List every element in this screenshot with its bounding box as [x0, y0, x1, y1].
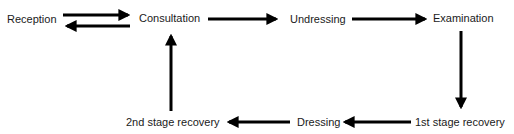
- node-reception: Reception: [7, 13, 57, 26]
- node-undressing: Undressing: [290, 13, 346, 26]
- flow-diagram: Reception Consultation Undressing Examin…: [0, 0, 514, 134]
- node-dressing: Dressing: [297, 116, 340, 129]
- node-examination: Examination: [433, 12, 494, 25]
- node-stage1-recovery: 1st stage recovery: [415, 116, 505, 129]
- node-stage2-recovery: 2nd stage recovery: [126, 116, 220, 129]
- node-consultation: Consultation: [139, 12, 200, 25]
